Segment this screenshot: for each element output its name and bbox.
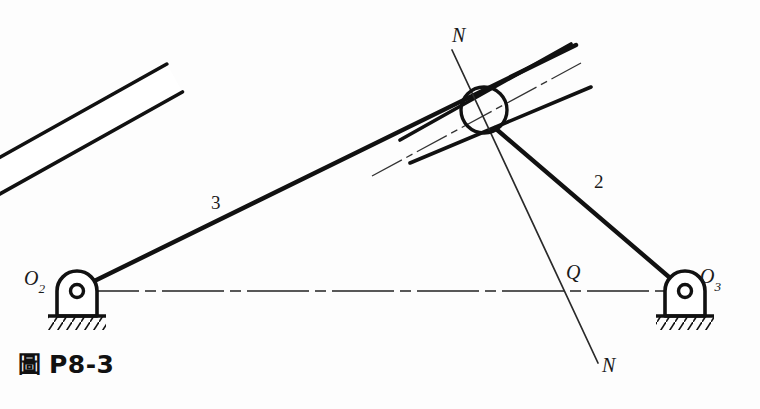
slider-centerline	[372, 63, 581, 176]
ground-hatch-icon	[48, 317, 106, 330]
label-link-3: 3	[211, 193, 221, 212]
label-pivot-o3-subscript: 3	[714, 279, 721, 294]
label-pivot-o2-base: O	[24, 267, 38, 289]
link-2-bar	[495, 128, 683, 289]
label-pivot-o3: O3	[700, 266, 721, 290]
ground-hatch-icon	[656, 317, 714, 330]
figure-caption-label: P8-3	[49, 352, 115, 377]
label-normal-axis-bottom: N	[602, 355, 615, 375]
figure-caption: 圖 P8-3	[18, 352, 115, 377]
mechanism-diagram	[0, 0, 760, 409]
figure-caption-marker: 圖	[18, 353, 41, 376]
label-pivot-o3-base: O	[700, 265, 714, 287]
label-pivot-o2-subscript: 2	[38, 281, 45, 296]
normal-axis-nn-line	[452, 50, 598, 363]
label-normal-axis-top: N	[452, 25, 465, 45]
label-pivot-o2: O2	[24, 268, 45, 292]
figure-p8-3: O2 O3 Q N N 3 2 圖 P8-3	[0, 0, 760, 409]
label-link-2: 2	[594, 172, 604, 191]
slider-block	[0, 61, 188, 211]
label-instant-center-q: Q	[566, 262, 580, 282]
